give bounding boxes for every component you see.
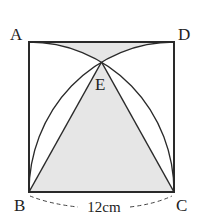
shaded-top-region [29, 42, 174, 62]
geometry-diagram: A D E B C 12cm [0, 0, 207, 222]
label-c: C [176, 196, 187, 215]
dimension-arc-right [130, 196, 172, 207]
label-b: B [14, 196, 25, 215]
dimension-label: 12cm [87, 199, 121, 215]
label-d: D [178, 25, 190, 44]
dimension-arc-left [30, 196, 78, 207]
label-e: E [95, 75, 105, 94]
label-a: A [10, 25, 23, 44]
